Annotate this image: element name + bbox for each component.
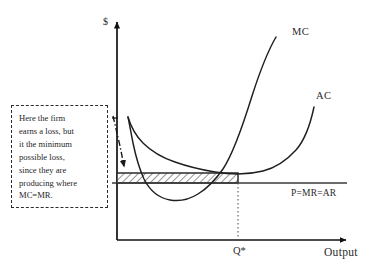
annotation-line-2: earns a loss, but bbox=[19, 125, 102, 138]
x-axis-label: Output bbox=[324, 247, 358, 259]
y-axis-label: $ bbox=[103, 17, 108, 27]
annotation-line-6: producing where bbox=[19, 177, 102, 190]
annotation-line-7: MC=MR. bbox=[19, 189, 102, 202]
q-star-tick-label: Q* bbox=[233, 246, 246, 257]
ac-curve bbox=[128, 107, 314, 174]
mc-curve-label: MC bbox=[292, 27, 309, 38]
annotation-line-3: it the minimum bbox=[19, 138, 102, 151]
annotation-line-5: since they are bbox=[19, 164, 102, 177]
ac-curve-label: AC bbox=[316, 91, 331, 102]
annotation-line-1: Here the firm bbox=[19, 112, 102, 125]
annotation-box: Here the firm earns a loss, but it the m… bbox=[11, 105, 108, 208]
demand-line-label: P=MR=AR bbox=[291, 189, 336, 199]
economics-figure: Here the firm earns a loss, but it the m… bbox=[0, 0, 374, 270]
annotation-arrow bbox=[113, 116, 124, 166]
annotation-line-4: possible loss, bbox=[19, 151, 102, 164]
